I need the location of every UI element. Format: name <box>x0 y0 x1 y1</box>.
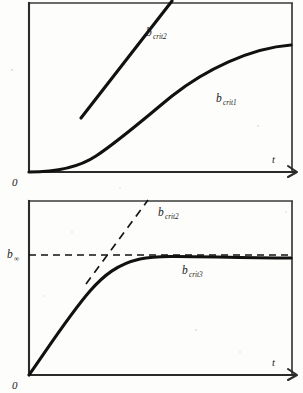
top-chart-panel: b crit2 b crit1 0 t <box>0 0 303 196</box>
bottom-chart-panel: b ∞ b crit2 b crit3 0 t <box>0 196 303 393</box>
bottom-origin-label: 0 <box>12 379 18 391</box>
label-b-crit2-top-sub: crit2 <box>153 33 167 41</box>
label-b-infinity-base: b <box>7 248 13 260</box>
bottom-chart-background <box>0 196 303 393</box>
label-b-crit2-bottom-base: b <box>158 206 164 218</box>
top-origin-label: 0 <box>12 176 18 188</box>
figure-page: b crit2 b crit1 0 t <box>0 0 303 393</box>
label-b-crit3-sub: crit3 <box>189 271 203 279</box>
label-b-crit1-base: b <box>216 92 222 104</box>
label-b-crit3-base: b <box>182 264 188 276</box>
label-b-crit2-top-base: b <box>146 26 152 38</box>
label-b-infinity-sub: ∞ <box>14 255 19 263</box>
label-b-crit1-sub: crit1 <box>223 99 237 107</box>
label-b-crit2-bottom-sub: crit2 <box>165 213 179 221</box>
